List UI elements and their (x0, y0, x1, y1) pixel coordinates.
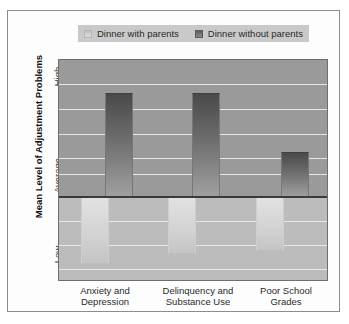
gridline-7 (59, 269, 327, 270)
legend-entry-dinner-with-parents: Dinner with parents (84, 29, 179, 39)
bar-anxiety-without-parents (105, 93, 133, 197)
bar-delinquency-without-parents (192, 93, 220, 197)
plot-area (58, 59, 328, 281)
legend-entry-dinner-without-parents: Dinner without parents (195, 29, 303, 39)
bar-anxiety-with-parents (81, 197, 109, 264)
legend-label-dinner-without-parents: Dinner without parents (208, 29, 303, 39)
bar-delinquency-with-parents (168, 197, 196, 254)
gridline-0 (59, 84, 327, 85)
legend-swatch-icon-dark (195, 30, 203, 38)
average-baseline (59, 196, 327, 198)
x-axis-label-poor-school-grades: Poor School Grades (244, 285, 328, 307)
chart-legend: Dinner with parents Dinner without paren… (78, 25, 309, 42)
x-axis-label-anxiety-and-depression: Anxiety and Depression (60, 285, 150, 307)
y-axis-title: Mean Level of Adjustment Problems (33, 47, 44, 227)
legend-swatch-icon-light (84, 30, 92, 38)
chart-figure: Dinner with parents Dinner without paren… (7, 10, 340, 312)
x-axis-label-delinquency-and-substance-use: Delinquency and Substance Use (148, 285, 248, 307)
legend-label-dinner-with-parents: Dinner with parents (97, 29, 179, 39)
bar-grades-without-parents (281, 152, 309, 197)
bar-grades-with-parents (256, 197, 284, 251)
